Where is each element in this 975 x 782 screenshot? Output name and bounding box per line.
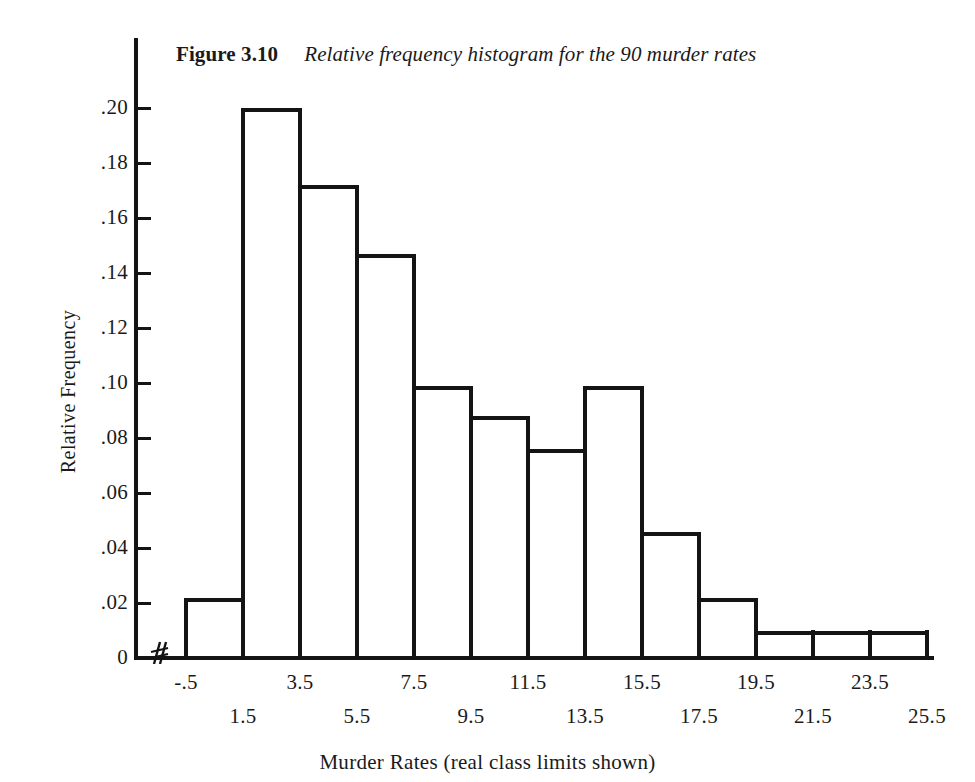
histogram-bar	[811, 631, 872, 661]
histogram-bar	[412, 386, 473, 660]
histogram-bar	[754, 631, 815, 661]
histogram-bar	[526, 449, 587, 660]
histogram-bar	[583, 386, 644, 660]
plot-area: 0.02.04.06.08.10.12.14.16.18.20 -.51.53.…	[0, 0, 975, 782]
histogram-bar	[469, 416, 530, 660]
histogram-figure: Figure 3.10Relative frequency histogram …	[0, 0, 975, 782]
histogram-bar	[184, 598, 245, 661]
histogram-bar	[298, 185, 359, 660]
histogram-bar	[241, 108, 302, 660]
histogram-bar	[640, 532, 701, 661]
histogram-bar	[355, 254, 416, 660]
histogram-bar	[697, 598, 758, 661]
histogram-bar	[868, 631, 929, 661]
bars-layer	[0, 0, 975, 782]
x-axis-title: Murder Rates (real class limits shown)	[0, 750, 975, 775]
